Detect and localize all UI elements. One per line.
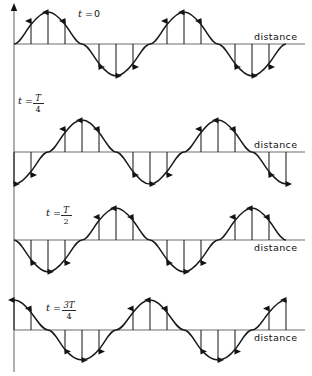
time-label-panel-3-equals: =	[53, 207, 61, 218]
time-label-panel-3: t = T 2	[46, 205, 72, 226]
time-label-panel-2-equals: =	[25, 95, 33, 106]
time-label-panel-2-denominator: 4	[35, 105, 40, 114]
distance-label-panel-3: distance	[254, 242, 297, 253]
time-label-panel-4-numerator: 3T	[63, 300, 75, 310]
time-label-panel-4-denominator: 4	[66, 312, 71, 321]
time-label-panel-2-numerator: T	[35, 93, 42, 103]
time-label-panel-1-var: t	[78, 8, 83, 19]
wave-diagram-svg: t = 0 distance	[0, 0, 312, 376]
time-label-panel-3-numerator: T	[63, 205, 70, 215]
distance-label-panel-4: distance	[254, 332, 297, 343]
panel-t-three-quarter: t = 3T 4 distance	[14, 300, 305, 360]
time-label-panel-4: t = 3T 4	[46, 300, 76, 321]
vertical-axis-arrowhead	[11, 3, 17, 11]
panel-t-quarter: t = T 4 distance	[14, 93, 305, 184]
time-label-panel-3-denominator: 2	[63, 217, 68, 226]
time-label-panel-4-equals: =	[53, 302, 61, 313]
distance-label-panel-1: distance	[254, 31, 297, 42]
time-label-panel-2: t = T 4	[18, 93, 44, 114]
time-label-panel-1-equals: =	[85, 8, 93, 19]
panel-t0: t = 0 distance	[14, 8, 305, 76]
time-label-panel-1-value: 0	[94, 8, 100, 19]
time-label-panel-2-var: t	[18, 95, 23, 106]
time-label-panel-4-var: t	[46, 302, 51, 313]
wave-snapshots-figure: t = 0 distance	[0, 0, 312, 376]
time-label-panel-3-var: t	[46, 207, 51, 218]
panel-t-half: t = T 2 distance	[14, 205, 305, 272]
distance-label-panel-2: distance	[254, 139, 297, 150]
time-label-panel-1: t = 0	[78, 8, 100, 19]
